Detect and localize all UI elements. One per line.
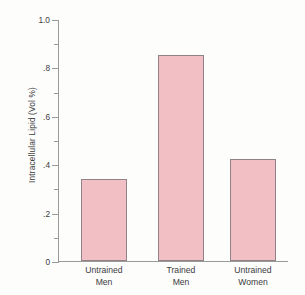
y-tick-mark: [52, 20, 58, 21]
y-tick-label: .4: [43, 160, 50, 170]
y-tick-mark: [54, 189, 58, 190]
x-axis-category-label: UntrainedMen: [67, 265, 141, 288]
bars-layer: [59, 20, 288, 261]
y-tick-mark: [52, 214, 58, 215]
category-label-line: Untrained: [216, 265, 290, 277]
category-label-line: Women: [216, 277, 290, 289]
x-axis-category-label: TrainedMen: [144, 265, 218, 288]
bar: [81, 179, 127, 261]
plot-area: 0.2.4.6.81.0: [58, 20, 288, 262]
y-tick-label: 0: [45, 257, 50, 267]
bar-column: [81, 19, 127, 261]
y-tick-mark: [52, 68, 58, 69]
category-label-line: Untrained: [67, 265, 141, 277]
bar-column: [230, 19, 276, 261]
category-label-line: Men: [144, 277, 218, 289]
bar-column: [158, 19, 204, 261]
category-label-line: Men: [67, 277, 141, 289]
x-axis-line: [58, 261, 288, 262]
y-tick-mark: [54, 44, 58, 45]
x-axis-category-labels: UntrainedMenTrainedMenUntrainedWomen: [59, 265, 289, 295]
bar: [230, 159, 276, 261]
y-tick-mark: [52, 262, 58, 263]
y-tick-label: .8: [43, 63, 50, 73]
bar-chart-figure: Intracellular Lipid (Vol %) 0.2.4.6.81.0…: [0, 0, 305, 295]
x-axis-category-label: UntrainedWomen: [216, 265, 290, 288]
y-tick-mark: [54, 93, 58, 94]
y-tick-mark: [52, 117, 58, 118]
y-tick-label: 1.0: [38, 15, 50, 25]
y-axis-title: Intracellular Lipid (Vol %): [27, 40, 37, 230]
y-tick-mark: [54, 141, 58, 142]
y-tick-mark: [54, 238, 58, 239]
y-tick-label: .2: [43, 209, 50, 219]
y-tick-mark: [52, 165, 58, 166]
y-tick-label: .6: [43, 112, 50, 122]
bar: [158, 55, 204, 261]
category-label-line: Trained: [144, 265, 218, 277]
